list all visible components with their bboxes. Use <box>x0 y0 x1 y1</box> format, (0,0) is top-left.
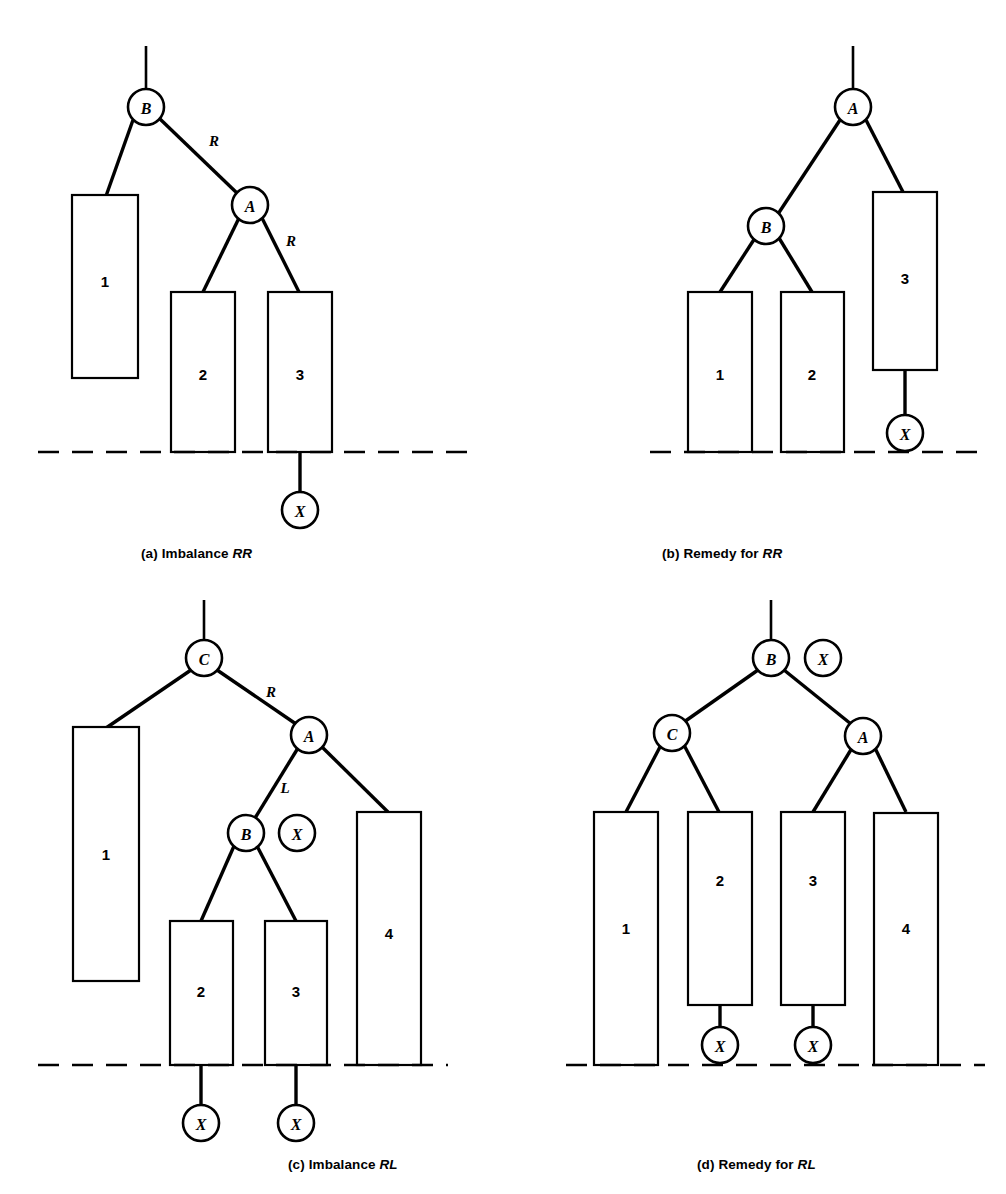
panel-c-node-b-label: B <box>240 826 252 843</box>
caption-d-prefix: (d) <box>697 1157 715 1172</box>
panel-d-node-c-label: C <box>667 726 678 743</box>
panel-d-box-label-1: 1 <box>622 920 630 937</box>
panel-d-subtree-box-1 <box>594 812 658 1065</box>
panel-c-node-a-label: A <box>303 728 315 745</box>
panel-d-box-label-4: 4 <box>902 920 911 937</box>
panel-d-subtree-box-4 <box>874 813 938 1065</box>
panel-d-edge-c-to-box2 <box>684 745 719 812</box>
avl-rotation-diagram: 1 2 3 B A X R R <box>0 0 1006 1194</box>
caption-panel-b: (b) Remedy for RR <box>662 546 782 561</box>
panel-c-node-c-label: C <box>199 651 210 668</box>
panel-b-edge-a-to-box3 <box>866 120 903 192</box>
panel-d-node-b-label: B <box>765 651 777 668</box>
caption-b-text: Remedy for <box>683 546 758 561</box>
panel-d-node-x-left-label: X <box>714 1038 726 1055</box>
panel-b-edge-a-to-b <box>778 120 840 214</box>
panel-b-box-label-3: 3 <box>901 270 909 287</box>
panel-a-edge-a-to-box2 <box>203 218 239 292</box>
panel-a-box-label-2: 2 <box>199 366 207 383</box>
panel-a-edge-label-r-lower: R <box>285 233 296 249</box>
panel-b-box-label-1: 1 <box>716 366 724 383</box>
panel-a-box-label-3: 3 <box>296 366 304 383</box>
panel-d-node-a-label: A <box>857 729 869 746</box>
panel-c-imbalance-rl: 1 2 3 4 C A B X X X R L <box>38 600 448 1141</box>
panel-c-box-label-1: 1 <box>102 846 110 863</box>
panel-d-node-x-right-label: X <box>807 1038 819 1055</box>
panel-a-node-a-label: A <box>244 198 256 215</box>
panel-c-edge-b-to-box2 <box>201 846 234 921</box>
caption-b-emphasis: RR <box>763 546 783 561</box>
caption-a-emphasis: RR <box>232 546 252 561</box>
panel-c-node-x-right-label: X <box>290 1116 302 1133</box>
panel-c-node-x-left-label: X <box>195 1116 207 1133</box>
panel-d-edge-a-to-box3 <box>813 748 852 812</box>
panel-c-edge-b-to-box3 <box>257 846 296 921</box>
caption-c-prefix: (c) <box>288 1157 305 1172</box>
caption-panel-a: (a) Imbalance RR <box>141 546 252 561</box>
panel-d-subtree-box-3 <box>781 812 845 1005</box>
caption-panel-c: (c) Imbalance RL <box>288 1157 398 1172</box>
panel-b-box-label-2: 2 <box>808 366 816 383</box>
panel-a-node-x-label: X <box>294 503 306 520</box>
panel-b-node-a-label: A <box>847 100 859 117</box>
panel-c-edge-c-to-a <box>217 670 296 724</box>
panel-d-edge-c-to-box1 <box>626 745 661 812</box>
panel-c-box-label-3: 3 <box>292 983 300 1000</box>
panel-b-node-x-label: X <box>899 426 911 443</box>
panel-a-edge-label-r-upper: R <box>208 133 219 149</box>
caption-d-emphasis: RL <box>798 1157 816 1172</box>
panel-a-imbalance-rr: 1 2 3 B A X R R <box>38 46 470 528</box>
panel-a-box-label-1: 1 <box>101 273 109 290</box>
panel-a-edge-a-to-box3 <box>262 218 299 292</box>
panel-c-edge-a-to-box4 <box>321 746 388 812</box>
panel-c-edge-label-r: R <box>265 684 276 700</box>
caption-panel-d: (d) Remedy for RL <box>697 1157 816 1172</box>
panel-a-node-b-label: B <box>140 100 152 117</box>
panel-b-edge-b-to-box2 <box>779 238 812 292</box>
panel-d-edge-b-to-c <box>684 670 758 722</box>
panel-a-edge-b-to-a <box>160 119 238 194</box>
panel-d-box-label-2: 2 <box>716 872 724 889</box>
caption-b-prefix: (b) <box>662 546 680 561</box>
panel-c-node-x-side-label: X <box>291 826 303 843</box>
caption-a-prefix: (a) <box>141 546 158 561</box>
caption-d-text: Remedy for <box>718 1157 793 1172</box>
panel-b-edge-b-to-box1 <box>720 238 755 292</box>
panel-c-edge-a-to-b <box>255 748 298 818</box>
panel-d-edge-b-to-a <box>784 670 851 724</box>
panel-c-box-label-4: 4 <box>385 925 394 942</box>
panel-b-node-b-label: B <box>760 219 772 236</box>
panel-d-edge-a-to-box4 <box>875 748 906 812</box>
panel-c-box-label-2: 2 <box>197 983 205 1000</box>
panel-d-box-label-3: 3 <box>809 872 817 889</box>
panel-a-edge-b-to-box1 <box>106 120 133 196</box>
caption-c-text: Imbalance <box>309 1157 376 1172</box>
panel-b-remedy-rr: 1 2 3 A B X <box>650 46 985 452</box>
panel-c-edge-label-l: L <box>279 780 289 796</box>
figure-root: 1 2 3 B A X R R <box>0 0 1006 1194</box>
caption-c-emphasis: RL <box>379 1157 397 1172</box>
caption-a-text: Imbalance <box>162 546 229 561</box>
panel-d-remedy-rl: 1 2 3 4 B X C A X X <box>566 600 985 1065</box>
panel-d-subtree-box-2 <box>688 812 752 1005</box>
panel-d-node-x-side-label: X <box>817 651 829 668</box>
panel-c-edge-c-to-box1 <box>106 670 191 728</box>
